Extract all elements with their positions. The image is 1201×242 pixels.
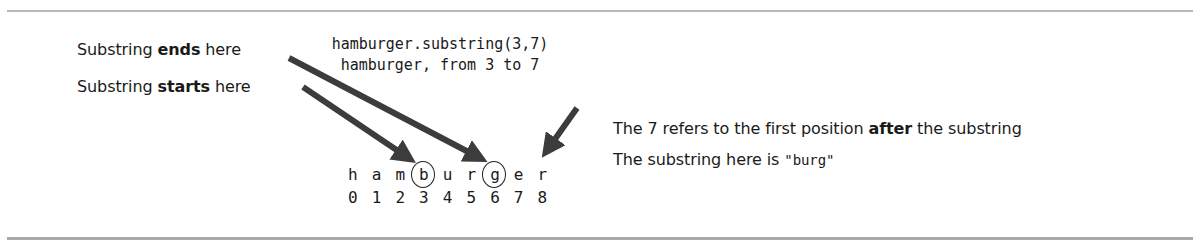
ends-label: Substring ends here xyxy=(77,40,241,59)
starts-label-prefix: Substring xyxy=(77,77,157,96)
index-cell: 2 xyxy=(388,188,412,207)
char: e xyxy=(514,165,524,184)
char: r xyxy=(466,165,476,184)
char: a xyxy=(372,165,382,184)
char-cell-start: b xyxy=(412,165,436,184)
note-result-value: "burg" xyxy=(784,152,834,168)
index-cell: 7 xyxy=(507,188,531,207)
bottom-divider xyxy=(7,237,1193,240)
starts-label-bold: starts xyxy=(157,77,209,96)
string-characters: h a m b u r g e r xyxy=(341,165,554,184)
ends-label-suffix: here xyxy=(200,40,241,59)
index-cell: 3 xyxy=(412,188,436,207)
char-cell: m xyxy=(388,165,412,184)
ends-label-bold: ends xyxy=(157,40,200,59)
index-cell: 1 xyxy=(365,188,389,207)
code-line-call: hamburger.substring(3,7) xyxy=(290,35,590,53)
starts-label: Substring starts here xyxy=(77,77,251,96)
string-indices: 0 1 2 3 4 5 6 7 8 xyxy=(341,188,554,207)
char-cell: u xyxy=(436,165,460,184)
end-circle-icon xyxy=(482,161,506,188)
index-cell: 5 xyxy=(459,188,483,207)
char: h xyxy=(348,165,358,184)
note-after-suffix: the substring xyxy=(912,119,1022,138)
note-after-prefix: The 7 refers to the first position xyxy=(613,119,868,138)
index-cell: 8 xyxy=(531,188,555,207)
char-cell: r xyxy=(459,165,483,184)
index-cell: 4 xyxy=(436,188,460,207)
starts-arrow-icon xyxy=(303,87,407,157)
char: u xyxy=(443,165,453,184)
index-cell: 0 xyxy=(341,188,365,207)
note-after-position: The 7 refers to the first position after… xyxy=(613,119,1022,138)
note-substring-result: The substring here is "burg" xyxy=(613,150,834,169)
note-result-prefix: The substring here is xyxy=(613,150,784,169)
char: m xyxy=(395,165,405,184)
end-exclusive-arrow-icon xyxy=(548,108,577,149)
char: r xyxy=(538,165,548,184)
index-cell: 6 xyxy=(483,188,507,207)
char-cell: h xyxy=(341,165,365,184)
char-cell-end: g xyxy=(483,165,507,184)
char-cell: a xyxy=(365,165,389,184)
starts-label-suffix: here xyxy=(210,77,251,96)
ends-label-prefix: Substring xyxy=(77,40,157,59)
char-cell: e xyxy=(507,165,531,184)
top-divider xyxy=(7,10,1193,12)
code-line-description: hamburger, from 3 to 7 xyxy=(290,56,590,74)
start-circle-icon xyxy=(411,161,435,188)
note-after-bold: after xyxy=(868,119,912,138)
char-cell: r xyxy=(531,165,555,184)
